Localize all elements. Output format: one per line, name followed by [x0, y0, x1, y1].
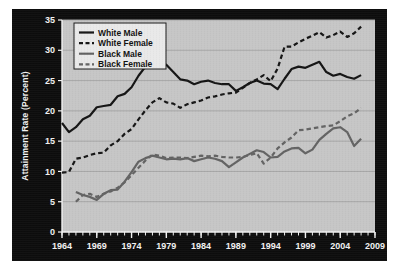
x-tick-label-1964: 1964	[52, 241, 72, 251]
x-tick-label-2009: 2009	[365, 241, 385, 251]
x-tick-label-2004: 2004	[330, 241, 350, 251]
y-tick-label-20: 20	[45, 106, 55, 116]
y-tick-label-15: 15	[45, 136, 55, 146]
y-axis-title: Attainment Rate (Percent)	[20, 71, 30, 180]
y-tick-label-10: 10	[45, 167, 55, 177]
legend: White MaleWhite FemaleBlack MaleBlack Fe…	[74, 23, 166, 69]
legend-label-black-female: Black Female	[98, 59, 153, 69]
y-tick-label-35: 35	[45, 15, 55, 25]
chart-figure: 05101520253035Attainment Rate (Percent)1…	[12, 9, 387, 261]
x-tick-label-1989: 1989	[226, 241, 246, 251]
y-tick-label-30: 30	[45, 45, 55, 55]
y-tick-label-0: 0	[50, 227, 55, 237]
x-tick-label-1969: 1969	[87, 241, 107, 251]
legend-label-white-female: White Female	[98, 38, 153, 48]
x-tick-label-1979: 1979	[156, 241, 176, 251]
y-axis: 05101520253035	[45, 15, 62, 237]
x-tick-label-1999: 1999	[295, 241, 315, 251]
y-tick-label-25: 25	[45, 76, 55, 86]
x-tick-label-1974: 1974	[122, 241, 142, 251]
legend-label-black-male: Black Male	[98, 49, 142, 59]
chart-canvas: 05101520253035Attainment Rate (Percent)1…	[12, 9, 387, 261]
x-tick-label-1994: 1994	[261, 241, 281, 251]
x-tick-label-1984: 1984	[191, 241, 211, 251]
attainment-rate-line-chart: 05101520253035Attainment Rate (Percent)1…	[12, 9, 387, 261]
y-tick-label-5: 5	[50, 197, 55, 207]
legend-label-white-male: White Male	[98, 28, 143, 38]
x-axis: 1964196919741979198419891994199920042009	[52, 232, 385, 251]
